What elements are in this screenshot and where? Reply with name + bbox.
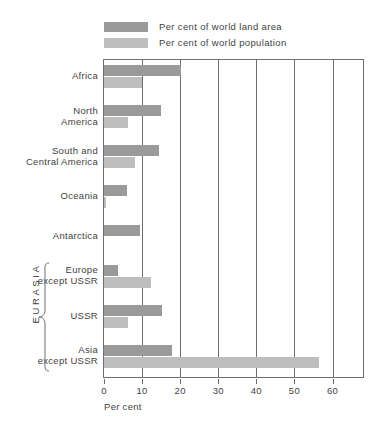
category-label-line: USSR bbox=[70, 310, 98, 321]
bar-population bbox=[104, 77, 142, 88]
category-label-line: Oceania bbox=[61, 190, 98, 201]
tick-label-30: 30 bbox=[213, 385, 224, 396]
bar-population bbox=[104, 277, 151, 288]
category-label-antarctica: Antarctica bbox=[53, 230, 98, 241]
bar-population bbox=[104, 197, 106, 208]
gridline-30 bbox=[218, 60, 219, 377]
legend-swatch-land-area bbox=[104, 22, 148, 32]
category-labels: AfricaNorthAmericaSouth andCentral Ameri… bbox=[0, 59, 100, 378]
category-label-africa: Africa bbox=[72, 70, 98, 81]
tick-label-20: 20 bbox=[175, 385, 186, 396]
tick-label-40: 40 bbox=[251, 385, 262, 396]
tick-label-50: 50 bbox=[289, 385, 300, 396]
tick-mark-50 bbox=[294, 379, 295, 384]
gridline-60 bbox=[333, 60, 334, 377]
tick-mark-10 bbox=[142, 379, 143, 384]
eurasia-brace-icon bbox=[38, 262, 50, 372]
category-label-line: Central America bbox=[26, 156, 98, 167]
tick-mark-40 bbox=[256, 379, 257, 384]
bar-population bbox=[104, 317, 128, 328]
legend-item-population: Per cent of world population bbox=[104, 36, 364, 49]
tick-label-10: 10 bbox=[136, 385, 147, 396]
tick-mark-30 bbox=[218, 379, 219, 384]
x-axis-title: Per cent bbox=[104, 401, 142, 412]
gridline-50 bbox=[294, 60, 295, 377]
x-axis: 0102030405060 bbox=[103, 379, 364, 401]
chart-plot-area bbox=[103, 59, 364, 378]
chart-legend: Per cent of world land area Per cent of … bbox=[104, 20, 364, 52]
bar-land-area bbox=[104, 65, 181, 76]
tick-mark-0 bbox=[104, 379, 105, 384]
category-label-line: South and bbox=[26, 145, 98, 156]
legend-label-population: Per cent of world population bbox=[159, 37, 287, 48]
bar-land-area bbox=[104, 305, 162, 316]
bar-land-area bbox=[104, 225, 140, 236]
category-label-line: North bbox=[61, 105, 98, 116]
gridline-40 bbox=[256, 60, 257, 377]
bar-land-area bbox=[104, 145, 159, 156]
bar-land-area bbox=[104, 345, 172, 356]
category-label-line: Africa bbox=[72, 70, 98, 81]
category-label-line: America bbox=[61, 116, 98, 127]
category-label-ussr: USSR bbox=[70, 310, 98, 321]
legend-swatch-population bbox=[104, 38, 148, 48]
gridline-20 bbox=[180, 60, 181, 377]
bar-land-area bbox=[104, 265, 118, 276]
bar-population bbox=[104, 357, 319, 368]
tick-label-0: 0 bbox=[101, 385, 107, 396]
category-label-line: Antarctica bbox=[53, 230, 98, 241]
bar-population bbox=[104, 157, 135, 168]
eurasia-group: EURASIA bbox=[20, 262, 50, 372]
category-label-south-and-central-america: South andCentral America bbox=[26, 145, 98, 167]
tick-label-60: 60 bbox=[327, 385, 338, 396]
category-label-oceania: Oceania bbox=[61, 190, 98, 201]
bar-land-area bbox=[104, 185, 127, 196]
category-label-north-america: NorthAmerica bbox=[61, 105, 98, 127]
bar-land-area bbox=[104, 105, 161, 116]
legend-item-land-area: Per cent of world land area bbox=[104, 20, 364, 33]
tick-mark-20 bbox=[180, 379, 181, 384]
tick-mark-60 bbox=[333, 379, 334, 384]
bar-population bbox=[104, 117, 128, 128]
legend-label-land-area: Per cent of world land area bbox=[159, 21, 282, 32]
